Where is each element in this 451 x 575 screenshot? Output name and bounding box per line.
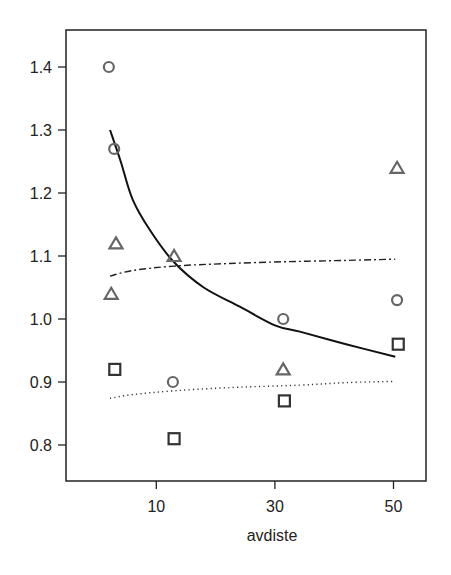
data-points [104, 62, 404, 444]
circle-marker [104, 62, 114, 72]
y-tick-label: 1.0 [30, 311, 52, 328]
y-tick-label: 1.2 [30, 185, 52, 202]
x-axis-title: avdiste [247, 527, 298, 544]
circle-marker [278, 314, 288, 324]
x-tick-label: 50 [385, 498, 403, 515]
circle-marker [168, 377, 178, 387]
y-tick-label: 1.3 [30, 122, 52, 139]
solid-curve [110, 130, 395, 357]
y-tick-label: 0.9 [30, 374, 52, 391]
square-marker [393, 339, 404, 350]
y-tick-label: 0.8 [30, 437, 52, 454]
dash-dot-curve [110, 259, 395, 276]
y-axis: 0.80.91.01.11.21.31.4 [30, 59, 66, 454]
x-tick-label: 10 [147, 498, 165, 515]
circle-marker [109, 144, 119, 154]
dotted-curve [110, 381, 395, 398]
triangle-marker [277, 363, 290, 374]
square-marker [279, 395, 290, 406]
y-tick-label: 1.4 [30, 59, 52, 76]
triangle-marker [168, 250, 181, 261]
scatter-chart: 0.80.91.01.11.21.31.4 103050 avdiste [0, 0, 451, 575]
x-axis: 103050 [147, 481, 402, 515]
triangle-marker [105, 288, 118, 299]
fitted-lines [110, 130, 395, 398]
square-marker [109, 364, 120, 375]
square-marker [169, 433, 180, 444]
y-tick-label: 1.1 [30, 248, 52, 265]
circle-marker [392, 295, 402, 305]
triangle-marker [109, 237, 122, 248]
plot-frame [66, 30, 426, 481]
x-tick-label: 30 [266, 498, 284, 515]
triangle-marker [391, 162, 404, 173]
